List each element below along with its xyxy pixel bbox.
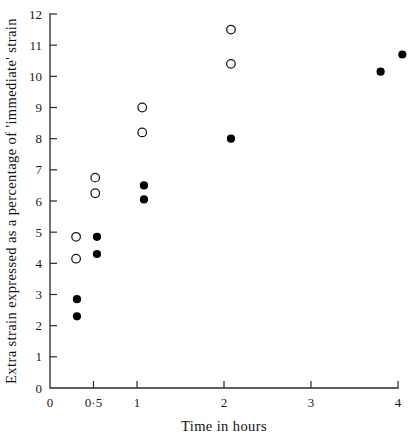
y-tick-label: 3: [36, 287, 43, 302]
filled-data-point: [140, 181, 148, 189]
x-axis-tick-labels: 00·51234: [47, 395, 402, 410]
y-tick-label: 6: [36, 194, 43, 209]
filled-data-point: [227, 135, 235, 143]
y-tick-label: 4: [36, 256, 43, 271]
series-filled-circles: [73, 50, 407, 320]
open-data-point: [91, 173, 100, 182]
filled-data-point: [73, 295, 81, 303]
x-tick-label: 2: [221, 395, 228, 410]
y-tick-label: 1: [36, 349, 43, 364]
x-tick-label: 3: [308, 395, 315, 410]
y-axis-tick-labels: 0123456789101112: [29, 7, 43, 396]
open-data-point: [72, 254, 81, 263]
open-data-point: [138, 103, 147, 112]
x-axis-ticks: [94, 381, 399, 388]
y-tick-label: 12: [29, 7, 42, 22]
scatter-plot-figure: 0123456789101112 00·51234 Time in hours …: [0, 0, 413, 439]
open-data-point: [138, 128, 147, 137]
y-tick-label: 8: [36, 131, 43, 146]
y-axis-title: Extra strain expressed as a percentage o…: [3, 18, 19, 384]
y-tick-label: 7: [36, 162, 43, 177]
x-tick-label: 0·5: [85, 395, 102, 410]
x-tick-label: 1: [134, 395, 141, 410]
data-point-layer: [72, 25, 407, 320]
y-tick-label: 11: [29, 38, 42, 53]
filled-data-point: [140, 195, 148, 203]
filled-data-point: [93, 250, 101, 258]
y-axis-ticks: [50, 14, 57, 357]
y-tick-label: 0: [36, 381, 43, 396]
plot-canvas: 0123456789101112 00·51234 Time in hours …: [0, 0, 413, 439]
open-data-point: [91, 189, 100, 198]
open-data-point: [227, 25, 236, 34]
x-tick-label: 4: [395, 395, 402, 410]
filled-data-point: [93, 233, 101, 241]
y-tick-label: 2: [36, 318, 43, 333]
x-tick-label: 0: [47, 395, 54, 410]
y-tick-label: 9: [36, 100, 43, 115]
filled-data-point: [398, 50, 406, 58]
axes-lines: [50, 14, 398, 388]
filled-data-point: [73, 312, 81, 320]
open-data-point: [227, 60, 236, 69]
x-axis-title: Time in hours: [181, 418, 267, 434]
filled-data-point: [377, 68, 385, 76]
y-tick-label: 10: [29, 69, 42, 84]
series-open-circles: [72, 25, 235, 263]
y-tick-label: 5: [36, 225, 43, 240]
open-data-point: [72, 233, 81, 242]
